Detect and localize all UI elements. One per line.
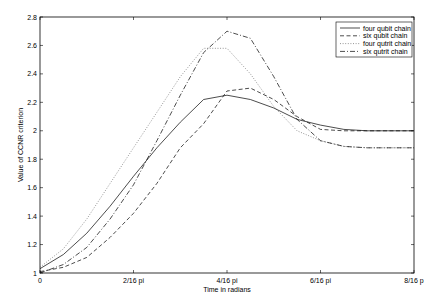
y-tick-label: 2.2 <box>27 99 37 106</box>
y-tick-label: 2.6 <box>27 42 37 49</box>
y-tick-label: 2 <box>33 127 37 134</box>
line-chart: 02/16 pi4/16 pi6/16 pi8/16 p 11.21.41.61… <box>0 0 444 308</box>
x-tick-label: 0 <box>38 277 42 284</box>
legend: four qubit chainsix qubit chainfour qutr… <box>336 22 412 57</box>
x-tick-label: 4/16 pi <box>216 277 237 285</box>
y-tick-label: 2.4 <box>27 70 37 77</box>
x-tick-label: 2/16 pi <box>123 277 144 285</box>
y-tick-label: 2.8 <box>27 14 37 21</box>
y-tick-label: 1.6 <box>27 184 37 191</box>
x-tick-label: 6/16 pi <box>310 277 331 285</box>
x-tick-label: 8/16 p <box>404 277 424 285</box>
x-axis-label: Time in radians <box>203 286 251 293</box>
legend-label: six qubit chain <box>363 32 407 40</box>
y-tick-label: 1 <box>33 270 37 277</box>
legend-label: six qutrit chain <box>363 48 408 56</box>
y-tick-label: 1.4 <box>27 213 37 220</box>
legend-label: four qutrit chain <box>363 40 411 48</box>
y-tick-label: 1.8 <box>27 156 37 163</box>
y-axis-label: Value of CCNR criterion <box>17 108 24 182</box>
legend-label: four qubit chain <box>363 25 411 33</box>
y-tick-label: 1.2 <box>27 241 37 248</box>
